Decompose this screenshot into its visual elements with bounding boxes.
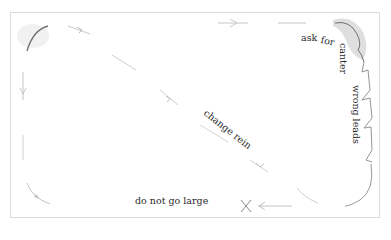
label-ask: ask — [301, 33, 317, 43]
corner-arc-bottom-mid — [297, 188, 318, 203]
x-mark-icon — [241, 200, 251, 212]
label-for: for — [320, 35, 335, 47]
label-do-not-go-large: do not go large — [135, 196, 208, 206]
label-wrong-leads: wrong leads — [352, 85, 362, 144]
wrong-leads-zigzag — [362, 62, 372, 162]
corner-arc-bottom-left — [27, 183, 50, 204]
corner-arc-bottom-right — [345, 164, 372, 206]
label-canter: canter — [339, 43, 349, 74]
diagonal-seg-1 — [112, 55, 136, 70]
diagonal-seg-2 — [160, 90, 178, 105]
